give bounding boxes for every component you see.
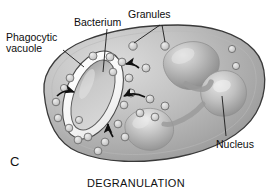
granule [232,62,239,69]
granule [127,89,135,97]
granule [151,113,159,121]
panel-letter: C [10,156,19,168]
granule [161,102,169,110]
granule [136,109,144,117]
granule [109,68,117,76]
granule [129,42,137,50]
granule [228,45,235,52]
granule [121,133,129,141]
granule [142,64,150,72]
granule [161,42,169,50]
granule [84,133,92,141]
granule [118,58,126,66]
granule [66,74,74,82]
granule [75,116,82,123]
figure-caption: DEGRANULATION [0,178,272,190]
granule [125,74,133,82]
granule [74,136,82,144]
label-nucleus: Nucleus [216,139,254,151]
granule [54,114,62,122]
granule [114,120,122,128]
granule [94,147,102,155]
granule [146,95,154,103]
label-bacterium: Bacterium [74,17,121,29]
granule [120,101,128,109]
granule [52,98,60,106]
label-granules: Granules [128,9,171,21]
granule [101,138,109,146]
label-phagocytic-vacuole-line2: vacuole [6,43,42,55]
degranulation-figure: Bacterium Granules Phagocytic vacuole Nu… [0,0,272,196]
granule [106,53,114,61]
granule [89,52,97,60]
granule [65,124,73,132]
diagram-canvas [0,0,272,196]
